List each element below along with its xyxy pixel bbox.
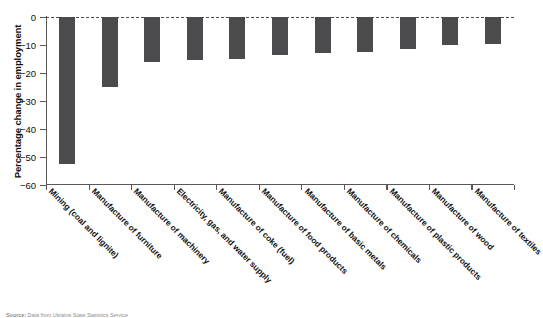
- bar: [272, 17, 288, 55]
- y-axis-tick-label: −10: [20, 40, 36, 51]
- bar: [357, 17, 373, 52]
- x-axis-category-label: Manufacture of plastic products: [388, 186, 484, 282]
- source-label: Source:: [6, 312, 26, 318]
- y-axis-tick: [40, 157, 46, 158]
- x-axis-category-label: Manufacture of machinery: [132, 186, 212, 266]
- y-axis-tick: [40, 101, 46, 102]
- bar: [485, 17, 501, 44]
- bar: [315, 17, 331, 53]
- y-axis-line: [46, 16, 47, 186]
- y-axis-tick-label: −50: [20, 152, 36, 163]
- x-axis-category-label: Manufacture of coke (fuel): [217, 186, 297, 266]
- x-axis-category-label-text: Manufacture of plastic products: [388, 186, 484, 282]
- x-axis-line: [46, 184, 514, 185]
- x-axis-category-label-text: Manufacture of coke (fuel): [217, 186, 297, 266]
- source-caption: Source: Data from Ukraine State Statisti…: [6, 312, 128, 318]
- x-axis-category-label-text: Manufacture of furniture: [90, 186, 165, 261]
- y-axis-tick: [40, 45, 46, 46]
- y-axis-tick-label: −30: [20, 96, 36, 107]
- x-axis-category-label: Mining (coal and lignite): [47, 186, 121, 260]
- y-axis-tick: [40, 73, 46, 74]
- bar: [442, 17, 458, 45]
- x-axis-category-label-text: Manufacture of food products: [260, 186, 350, 276]
- y-axis-tick: [40, 129, 46, 130]
- x-axis-tick: [514, 185, 515, 190]
- source-text: Data from Ukraine State Statistics Servi…: [28, 312, 128, 318]
- bar: [229, 17, 245, 59]
- x-axis-category-label: Manufacture of furniture: [90, 186, 165, 261]
- plot-area: 0−10−20−30−40−50−60: [46, 17, 514, 185]
- bar: [187, 17, 203, 60]
- y-axis-tick-label: −40: [20, 124, 36, 135]
- x-axis-category-label: Manufacture of basic metals: [302, 186, 388, 272]
- y-axis-tick: [40, 17, 46, 18]
- x-axis-category-labels: Mining (coal and lignite)Manufacture of …: [46, 186, 514, 298]
- y-axis-tick-label: −20: [20, 68, 36, 79]
- x-axis-category-label-text: Mining (coal and lignite): [47, 186, 121, 260]
- bar: [144, 17, 160, 62]
- x-axis-category-label-text: Manufacture of chemicals: [345, 186, 424, 265]
- x-axis-category-label-text: Manufacture of machinery: [132, 186, 212, 266]
- x-axis-category-label: Manufacture of chemicals: [345, 186, 424, 265]
- bar: [102, 17, 118, 87]
- x-axis-category-label: Manufacture of food products: [260, 186, 350, 276]
- bar: [59, 17, 75, 164]
- y-axis-tick-label: −60: [20, 180, 36, 191]
- x-axis-category-label-text: Manufacture of basic metals: [302, 186, 388, 272]
- y-axis-tick-label: 0: [31, 12, 36, 23]
- bar: [400, 17, 416, 49]
